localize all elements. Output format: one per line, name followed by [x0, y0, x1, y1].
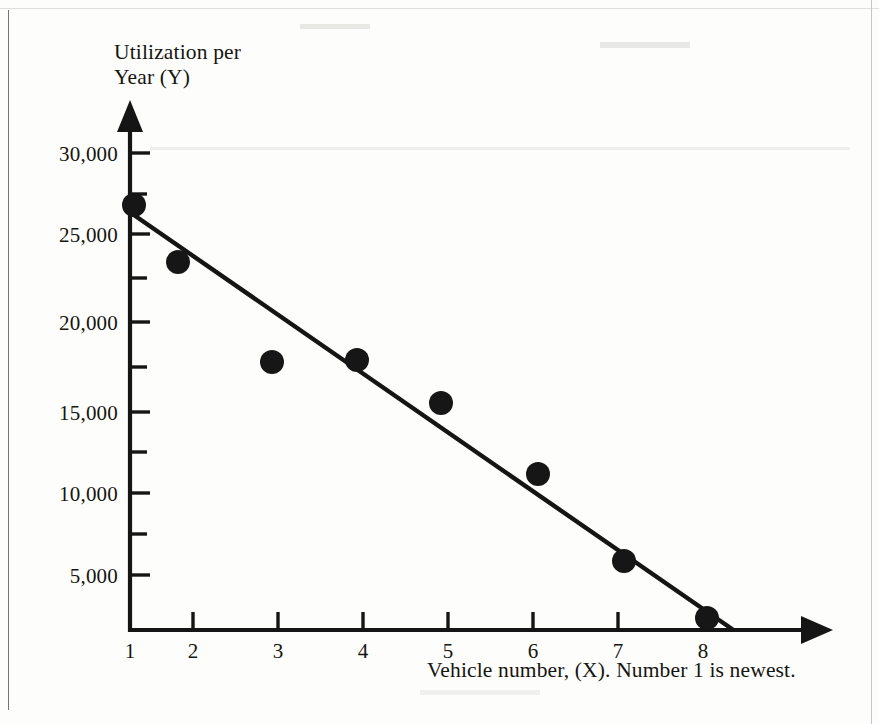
x-tick-label-3: 3	[263, 639, 293, 664]
x-tick-label-1: 1	[115, 639, 145, 664]
y-axis-arrowhead	[117, 100, 143, 132]
y-axis-title: Utilization per Year (Y)	[114, 40, 241, 90]
y-axis-title-line2: Year (Y)	[114, 65, 241, 90]
data-point	[166, 250, 190, 274]
y-tick-label-15000: 15,000	[24, 401, 118, 426]
y-axis-title-line1: Utilization per	[114, 40, 241, 65]
x-axis-arrowhead	[801, 616, 833, 644]
data-point	[612, 549, 636, 573]
data-point	[526, 462, 550, 486]
y-tick-label-30000: 30,000	[24, 142, 118, 167]
y-tick-label-10000: 10,000	[24, 482, 118, 507]
y-tick-label-20000: 20,000	[24, 311, 118, 336]
x-tick-label-2: 2	[178, 639, 208, 664]
x-tick-label-4: 4	[348, 639, 378, 664]
data-point	[260, 350, 284, 374]
trend-line	[131, 213, 732, 629]
data-point	[429, 391, 453, 415]
data-point	[695, 606, 719, 630]
y-tick-label-25000: 25,000	[24, 223, 118, 248]
x-axis-title: Vehicle number, (X). Number 1 is newest.	[427, 658, 796, 683]
data-point	[122, 193, 146, 217]
y-tick-label-5000: 5,000	[24, 564, 118, 589]
data-point	[345, 348, 369, 372]
figure-container: Utilization per Year (Y) 30,000 25,000 2…	[0, 0, 879, 724]
plot-svg	[0, 0, 879, 724]
